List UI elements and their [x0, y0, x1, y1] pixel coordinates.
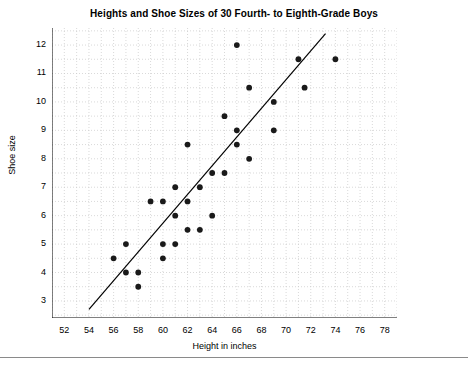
x-tick-label: 56: [102, 325, 126, 335]
data-point: [246, 85, 252, 91]
x-tick-label: 54: [77, 325, 101, 335]
y-tick-label: 12: [28, 39, 46, 49]
data-point: [271, 99, 277, 105]
y-tick-label: 11: [28, 67, 46, 77]
y-axis-label: Shoe size: [7, 115, 17, 195]
data-point: [148, 199, 154, 205]
plot-area: [52, 28, 397, 318]
data-point: [172, 241, 178, 247]
data-point: [234, 42, 240, 48]
data-point: [234, 142, 240, 148]
footer-divider: [0, 357, 468, 358]
data-point: [135, 284, 141, 290]
y-tick-label: 10: [28, 96, 46, 106]
data-point: [135, 270, 141, 276]
data-point: [296, 56, 302, 62]
x-tick-label: 72: [299, 325, 323, 335]
data-point: [160, 199, 166, 205]
data-point: [123, 270, 129, 276]
x-tick-label: 78: [373, 325, 397, 335]
data-points-layer: [52, 28, 397, 318]
x-tick-label: 70: [274, 325, 298, 335]
data-point: [209, 170, 215, 176]
data-point: [222, 113, 228, 119]
data-point: [197, 184, 203, 190]
data-point: [172, 213, 178, 219]
y-tick-label: 4: [28, 267, 46, 277]
data-point: [123, 241, 129, 247]
data-point: [302, 85, 308, 91]
x-tick-label: 60: [151, 325, 175, 335]
chart-title: Heights and Shoe Sizes of 30 Fourth- to …: [0, 8, 468, 19]
data-point: [111, 255, 117, 261]
x-tick-label: 68: [249, 325, 273, 335]
data-point: [222, 170, 228, 176]
x-tick-label: 58: [126, 325, 150, 335]
y-tick-label: 8: [28, 153, 46, 163]
data-point: [185, 142, 191, 148]
data-point: [172, 184, 178, 190]
x-tick-label: 64: [200, 325, 224, 335]
data-point: [209, 213, 215, 219]
y-tick-label: 3: [28, 295, 46, 305]
x-axis-label: Height in inches: [52, 341, 397, 351]
data-point: [160, 255, 166, 261]
x-tick-label: 62: [176, 325, 200, 335]
data-point: [234, 127, 240, 133]
data-point: [271, 127, 277, 133]
x-tick-label: 66: [225, 325, 249, 335]
data-point: [185, 227, 191, 233]
scatter-chart: Heights and Shoe Sizes of 30 Fourth- to …: [0, 0, 468, 367]
x-tick-label: 76: [348, 325, 372, 335]
data-point: [160, 241, 166, 247]
y-tick-label: 7: [28, 181, 46, 191]
x-tick-label: 52: [52, 325, 76, 335]
data-point: [185, 199, 191, 205]
y-tick-label: 5: [28, 238, 46, 248]
y-tick-label: 6: [28, 210, 46, 220]
data-point: [246, 156, 252, 162]
x-tick-label: 74: [323, 325, 347, 335]
data-point: [197, 227, 203, 233]
data-point: [332, 56, 338, 62]
y-tick-label: 9: [28, 124, 46, 134]
